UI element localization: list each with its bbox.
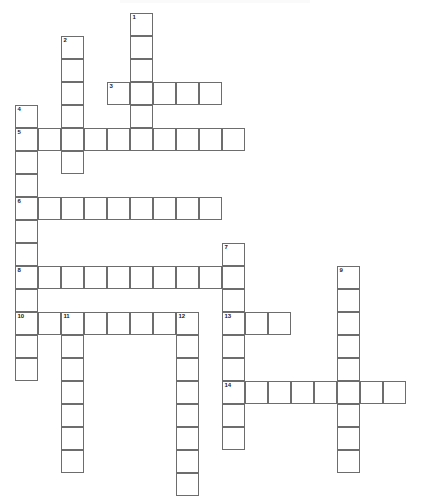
crossword-cell[interactable] — [199, 82, 222, 105]
crossword-cell[interactable] — [176, 381, 199, 404]
crossword-cell[interactable] — [107, 312, 130, 335]
crossword-cell[interactable] — [61, 82, 84, 105]
crossword-cell[interactable] — [130, 105, 153, 128]
crossword-cell[interactable] — [130, 197, 153, 220]
crossword-cell[interactable] — [199, 197, 222, 220]
crossword-cell[interactable] — [84, 312, 107, 335]
crossword-cell[interactable] — [176, 450, 199, 473]
crossword-cell[interactable] — [38, 312, 61, 335]
clue-number-11: 11 — [64, 313, 70, 320]
crossword-cell[interactable] — [15, 243, 38, 266]
crossword-cell[interactable] — [38, 197, 61, 220]
crossword-cell[interactable] — [84, 128, 107, 151]
crossword-cell[interactable] — [107, 197, 130, 220]
crossword-cell[interactable] — [199, 266, 222, 289]
crossword-cell[interactable] — [107, 266, 130, 289]
crossword-cell-numbered-13[interactable]: 13 — [222, 312, 245, 335]
crossword-cell[interactable] — [314, 381, 337, 404]
crossword-cell[interactable] — [222, 335, 245, 358]
crossword-cell[interactable] — [61, 335, 84, 358]
crossword-cell[interactable] — [130, 128, 153, 151]
crossword-cell[interactable] — [176, 266, 199, 289]
crossword-cell[interactable] — [130, 82, 153, 105]
crossword-cell-numbered-8[interactable]: 8 — [15, 266, 38, 289]
crossword-cell[interactable] — [153, 266, 176, 289]
crossword-cell[interactable] — [61, 128, 84, 151]
crossword-cell[interactable] — [153, 82, 176, 105]
crossword-cell[interactable] — [337, 450, 360, 473]
crossword-cell[interactable] — [176, 358, 199, 381]
crossword-cell[interactable] — [268, 312, 291, 335]
crossword-cell[interactable] — [15, 289, 38, 312]
crossword-cell[interactable] — [222, 289, 245, 312]
crossword-cell[interactable] — [130, 312, 153, 335]
crossword-cell[interactable] — [84, 266, 107, 289]
crossword-cell[interactable] — [176, 427, 199, 450]
crossword-cell-numbered-6[interactable]: 6 — [15, 197, 38, 220]
crossword-cell[interactable] — [222, 404, 245, 427]
crossword-cell[interactable] — [61, 59, 84, 82]
crossword-cell[interactable] — [199, 128, 222, 151]
crossword-cell[interactable] — [61, 358, 84, 381]
clue-number-3: 3 — [110, 83, 113, 90]
crossword-cell[interactable] — [130, 36, 153, 59]
crossword-cell[interactable] — [176, 128, 199, 151]
crossword-cell[interactable] — [176, 82, 199, 105]
crossword-cell[interactable] — [268, 381, 291, 404]
crossword-cell-numbered-4[interactable]: 4 — [15, 105, 38, 128]
crossword-cell[interactable] — [38, 266, 61, 289]
crossword-cell-numbered-3[interactable]: 3 — [107, 82, 130, 105]
crossword-cell[interactable] — [61, 381, 84, 404]
crossword-cell[interactable] — [84, 197, 107, 220]
crossword-cell[interactable] — [38, 128, 61, 151]
crossword-cell[interactable] — [176, 473, 199, 496]
crossword-cell[interactable] — [222, 358, 245, 381]
crossword-cell[interactable] — [153, 312, 176, 335]
crossword-cell[interactable] — [245, 312, 268, 335]
crossword-cell[interactable] — [61, 151, 84, 174]
crossword-cell[interactable] — [245, 381, 268, 404]
crossword-cell[interactable] — [337, 404, 360, 427]
crossword-cell[interactable] — [222, 427, 245, 450]
crossword-cell[interactable] — [61, 266, 84, 289]
crossword-cell-numbered-2[interactable]: 2 — [61, 36, 84, 59]
crossword-cell[interactable] — [222, 266, 245, 289]
crossword-cell[interactable] — [337, 427, 360, 450]
crossword-cell-numbered-11[interactable]: 11 — [61, 312, 84, 335]
crossword-cell-numbered-14[interactable]: 14 — [222, 381, 245, 404]
crossword-cell[interactable] — [153, 197, 176, 220]
crossword-cell[interactable] — [15, 335, 38, 358]
crossword-cell[interactable] — [61, 450, 84, 473]
crossword-cell[interactable] — [130, 59, 153, 82]
crossword-cell-numbered-5[interactable]: 5 — [15, 128, 38, 151]
crossword-cell[interactable] — [337, 289, 360, 312]
crossword-cell[interactable] — [337, 335, 360, 358]
crossword-cell[interactable] — [176, 335, 199, 358]
crossword-cell[interactable] — [176, 197, 199, 220]
crossword-cell[interactable] — [107, 128, 130, 151]
crossword-cell[interactable] — [337, 358, 360, 381]
crossword-cell[interactable] — [61, 105, 84, 128]
crossword-cell[interactable] — [61, 404, 84, 427]
crossword-cell[interactable] — [222, 128, 245, 151]
crossword-cell-numbered-10[interactable]: 10 — [15, 312, 38, 335]
crossword-cell[interactable] — [61, 427, 84, 450]
crossword-cell[interactable] — [61, 197, 84, 220]
crossword-cell-numbered-12[interactable]: 12 — [176, 312, 199, 335]
crossword-cell[interactable] — [130, 266, 153, 289]
crossword-cell[interactable] — [176, 404, 199, 427]
crossword-cell[interactable] — [15, 220, 38, 243]
crossword-cell[interactable] — [15, 174, 38, 197]
crossword-cell[interactable] — [383, 381, 406, 404]
crossword-cell-numbered-9[interactable]: 9 — [337, 266, 360, 289]
crossword-cell[interactable] — [15, 151, 38, 174]
crossword-cell[interactable] — [337, 381, 360, 404]
crossword-cell-numbered-7[interactable]: 7 — [222, 243, 245, 266]
crossword-cell[interactable] — [360, 381, 383, 404]
crossword-cell[interactable] — [291, 381, 314, 404]
crossword-cell[interactable] — [153, 128, 176, 151]
crossword-cell[interactable] — [337, 312, 360, 335]
crossword-cell-numbered-1[interactable]: 1 — [130, 13, 153, 36]
crossword-cell[interactable] — [15, 358, 38, 381]
